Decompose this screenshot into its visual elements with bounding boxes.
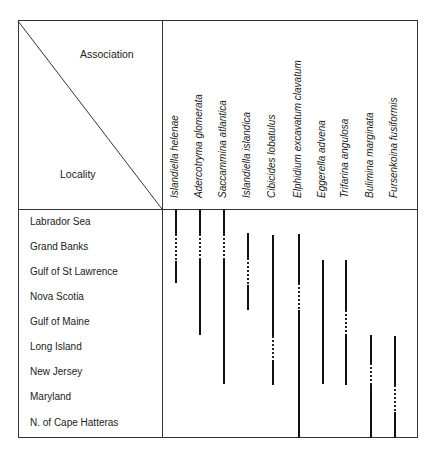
range-bar-dotted — [199, 234, 201, 260]
range-bar-solid — [322, 260, 324, 384]
range-bar-dotted — [370, 363, 372, 385]
range-bar-dotted — [247, 258, 249, 285]
species-header: Eggerella advena — [316, 120, 327, 198]
range-bar-dotted — [272, 336, 274, 360]
range-bar-solid — [247, 233, 249, 258]
corner-label-locality: Locality — [60, 168, 96, 180]
range-bar-solid — [272, 235, 274, 336]
locality-row-label: Labrador Sea — [30, 216, 91, 227]
range-bar-solid — [345, 334, 347, 385]
locality-row-label: Gulf of St Lawrence — [30, 266, 118, 277]
range-bar-solid — [394, 412, 396, 438]
range-bar-dotted — [345, 310, 347, 334]
range-bar-solid — [298, 310, 300, 438]
locality-row-label: Grand Banks — [30, 241, 88, 252]
species-header: Fursenkoina fusiformis — [388, 97, 399, 198]
range-bar-dotted — [175, 234, 177, 261]
species-header: Islandiella helenae — [169, 115, 180, 198]
range-bar-dotted — [298, 283, 300, 310]
range-bar-solid — [223, 260, 225, 384]
locality-row-label: Long Island — [30, 341, 82, 352]
locality-column-divider — [162, 20, 163, 438]
range-bar-solid — [394, 336, 396, 385]
range-bar-solid — [298, 234, 300, 283]
species-header: Trifarina angulosa — [339, 119, 350, 198]
species-header: Saccammina atlantica — [217, 100, 228, 198]
range-bar-dotted — [223, 234, 225, 260]
header-divider — [18, 209, 418, 210]
species-header: Adercotryma glomerata — [193, 94, 204, 198]
species-header: Islandiella islandica — [241, 112, 252, 198]
range-bar-solid — [199, 260, 201, 335]
locality-row-label: N. of Cape Hatteras — [30, 417, 118, 428]
species-header: Bulimina marginata — [364, 112, 375, 198]
locality-row-label: Gulf of Maine — [30, 316, 89, 327]
range-bar-solid — [272, 360, 274, 385]
species-header: Cibicides lobatulus — [266, 115, 277, 198]
range-bar-solid — [175, 261, 177, 283]
range-bar-solid — [345, 260, 347, 310]
range-bar-dotted — [394, 385, 396, 412]
range-bar-solid — [175, 210, 177, 234]
locality-row-label: New Jersey — [30, 366, 82, 377]
range-bar-solid — [370, 335, 372, 363]
range-bar-solid — [247, 285, 249, 310]
corner-label-association: Association — [80, 48, 134, 60]
locality-row-label: Nova Scotia — [30, 291, 84, 302]
range-bar-solid — [223, 210, 225, 234]
range-bar-solid — [199, 210, 201, 234]
range-bar-solid — [370, 385, 372, 438]
species-header: Elphidium excavatum clavatum — [292, 60, 303, 198]
locality-row-label: Maryland — [30, 391, 71, 402]
